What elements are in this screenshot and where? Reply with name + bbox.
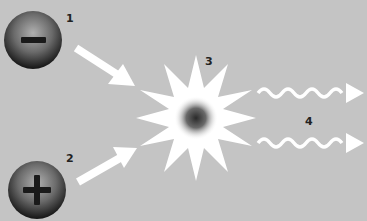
annihilation-burst bbox=[136, 55, 256, 181]
diagram-canvas bbox=[0, 0, 367, 221]
negative-particle bbox=[4, 11, 62, 69]
label-1: 1 bbox=[66, 12, 74, 25]
label-3: 3 bbox=[205, 55, 213, 68]
minus-icon bbox=[21, 37, 46, 43]
wave-arrow-bottom bbox=[258, 133, 364, 153]
label-4: 4 bbox=[305, 115, 313, 128]
arrow-1-to-3 bbox=[76, 48, 135, 86]
positive-particle bbox=[8, 161, 66, 219]
label-2: 2 bbox=[66, 152, 74, 165]
wave-arrow-top bbox=[258, 83, 364, 103]
arrow-2-to-3 bbox=[78, 147, 137, 182]
